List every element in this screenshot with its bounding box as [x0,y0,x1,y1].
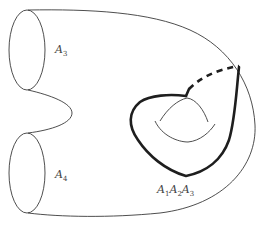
upper-boundary-label: A3 [55,43,67,58]
surface-outline [28,10,255,217]
loop-label: A1A2A3 [157,183,194,198]
upper-boundary-circle [9,10,45,90]
loop-junction [186,89,189,96]
surface-pinch [28,90,72,133]
handle-upper-curve [160,98,208,122]
lower-boundary-label: A4 [55,168,67,183]
lower-boundary-circle [9,133,45,213]
surface-diagram [0,0,266,228]
handle-lower-curve [155,121,215,142]
thick-loop [131,67,239,176]
dashed-loop-back [189,66,239,89]
